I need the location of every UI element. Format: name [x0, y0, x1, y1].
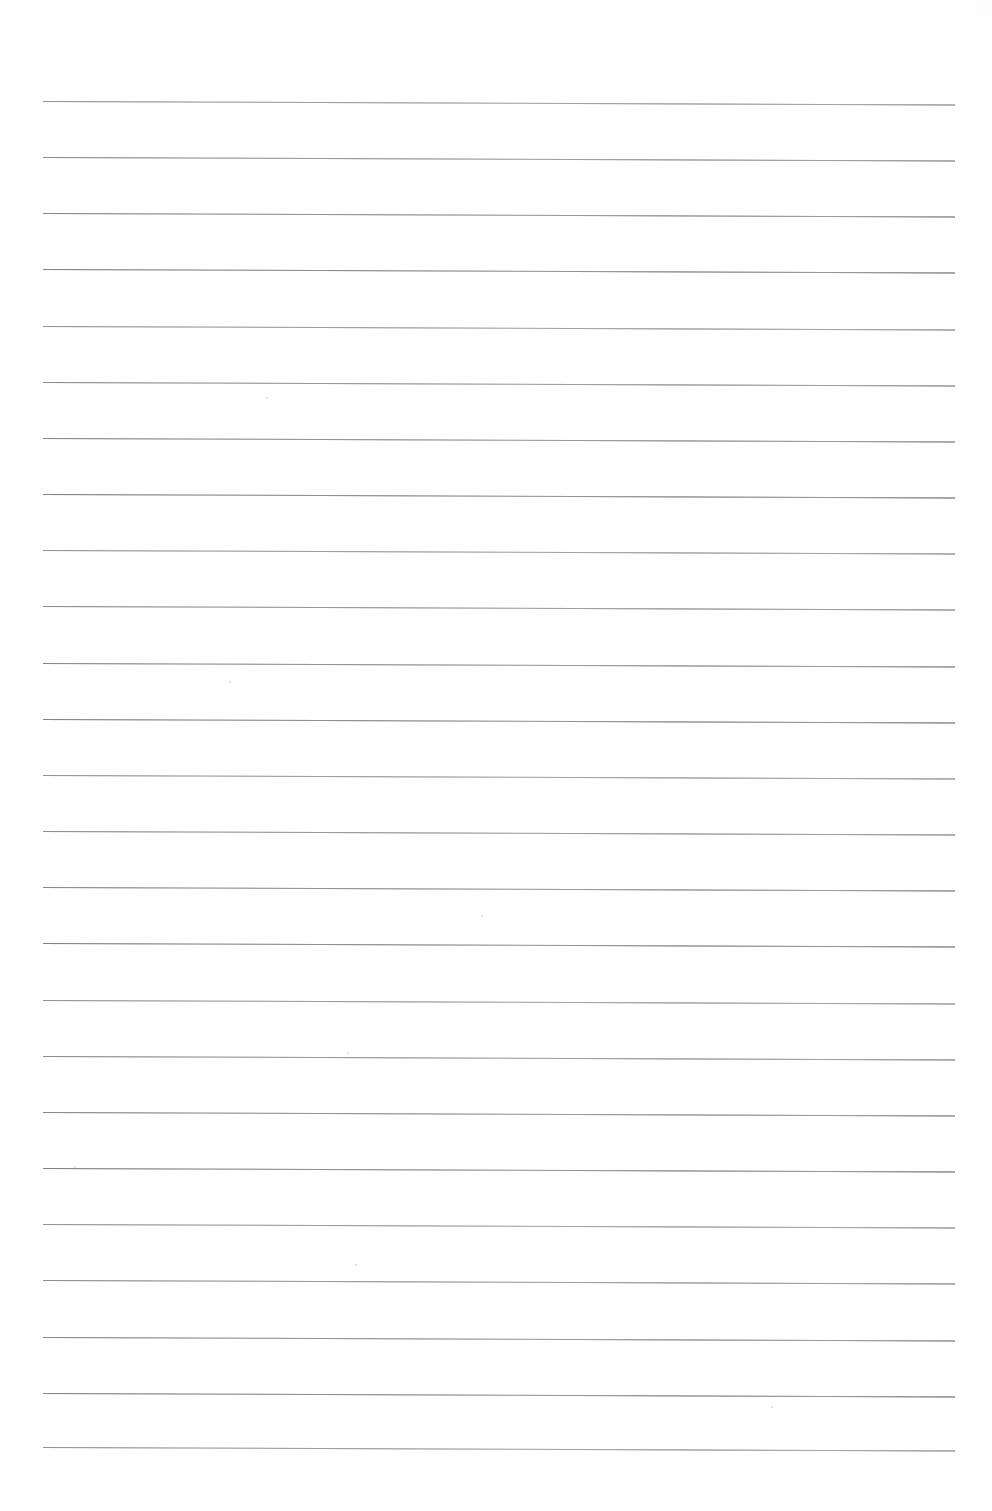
page-body-text	[43, 101, 955, 1447]
scanned-page	[0, 0, 992, 1511]
ruled-line	[43, 1447, 955, 1452]
corner-shading	[952, 0, 992, 40]
